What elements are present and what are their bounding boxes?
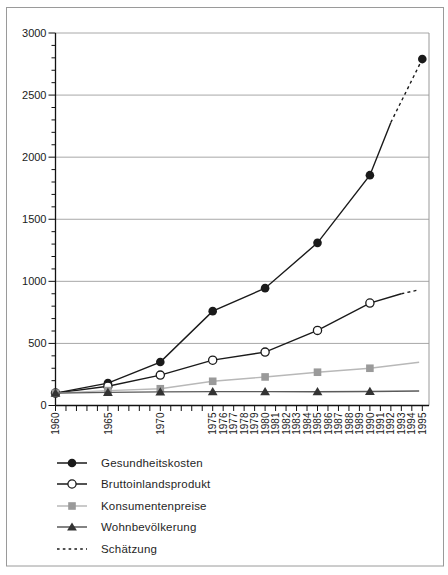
x-tick-label: 1970 bbox=[155, 412, 166, 435]
x-tick-label: 1980 bbox=[260, 412, 271, 435]
x-tick-label: 1976 bbox=[218, 412, 229, 435]
marker-open-dot bbox=[156, 371, 164, 379]
marker-dot bbox=[366, 171, 375, 180]
marker-dot bbox=[208, 307, 217, 316]
x-tick-label: 1982 bbox=[281, 412, 292, 435]
legend-symbol-gesundheitskosten bbox=[56, 456, 88, 470]
y-tick-label: 0 bbox=[40, 399, 46, 411]
series-line-gesundheitskosten bbox=[56, 122, 391, 393]
x-tick-label: 1979 bbox=[249, 412, 260, 435]
legend-symbol-konsumentenpreise bbox=[56, 499, 88, 513]
marker-dot bbox=[313, 239, 322, 248]
legend-item-konsumentenpreise: Konsumentenpreise bbox=[56, 495, 210, 517]
x-tick-label: 1988 bbox=[344, 412, 355, 435]
x-tick-label: 1977 bbox=[228, 412, 239, 435]
legend-label-konsumentenpreise: Konsumentenpreise bbox=[101, 500, 207, 512]
legend-item-bruttoinlandsprodukt: Bruttoinlandsprodukt bbox=[56, 474, 210, 496]
x-tick-label: 1994 bbox=[406, 412, 417, 435]
series-gesundheitskosten bbox=[51, 55, 426, 398]
x-tick-label: 1986 bbox=[323, 412, 334, 435]
marker-open-dot bbox=[261, 348, 269, 356]
legend-symbol-wohnbevoelkerung bbox=[56, 520, 88, 534]
x-tick-label: 1981 bbox=[270, 412, 281, 435]
marker-open-dot bbox=[68, 480, 76, 488]
x-tick-label: 1985 bbox=[312, 412, 323, 435]
legend-label-wohnbevoelkerung: Wohnbevölkerung bbox=[101, 521, 197, 533]
estimate-dashed-line-gesundheitskosten bbox=[391, 59, 422, 122]
marker-square bbox=[209, 377, 217, 385]
legend-symbol-schaetzung-dashed-line bbox=[56, 542, 88, 556]
x-tick-label: 1995 bbox=[417, 412, 428, 435]
x-tick-label: 1983 bbox=[291, 412, 302, 435]
y-tick-label: 2000 bbox=[22, 151, 46, 163]
x-tick-label: 1978 bbox=[239, 412, 250, 435]
x-tick-label: 1991 bbox=[375, 412, 386, 435]
x-tick-label: 1987 bbox=[333, 412, 344, 435]
marker-dot bbox=[418, 55, 427, 64]
y-tick-label: 500 bbox=[28, 337, 46, 349]
legend-label-schaetzung: Schätzung bbox=[101, 543, 157, 555]
y-tick-label: 2500 bbox=[22, 89, 46, 101]
x-tick-label: 1989 bbox=[354, 412, 365, 435]
marker-square bbox=[261, 373, 269, 381]
legend-item-gesundheitskosten: Gesundheitskosten bbox=[56, 452, 210, 474]
marker-dot bbox=[156, 358, 165, 367]
marker-square bbox=[366, 364, 374, 372]
x-tick-label: 1965 bbox=[103, 412, 114, 435]
marker-square bbox=[314, 368, 322, 376]
estimate-dashed-line-bruttoinlandsprodukt bbox=[401, 290, 418, 294]
marker-dot bbox=[68, 458, 77, 467]
legend-label-gesundheitskosten: Gesundheitskosten bbox=[101, 457, 203, 469]
x-tick-label: 1975 bbox=[207, 412, 218, 435]
marker-open-dot bbox=[313, 326, 321, 334]
legend-label-bruttoinlandsprodukt: Bruttoinlandsprodukt bbox=[101, 478, 210, 490]
marker-open-dot bbox=[209, 356, 217, 364]
legend-symbol-bruttoinlandsprodukt bbox=[56, 477, 88, 491]
legend-item-schaetzung: Schätzung bbox=[56, 538, 210, 560]
legend-item-wohnbevoelkerung: Wohnbevölkerung bbox=[56, 517, 210, 539]
x-tick-label: 1990 bbox=[365, 412, 376, 435]
x-tick-label: 1984 bbox=[302, 412, 313, 435]
chart-legend: Gesundheitskosten Bruttoinlandsprodukt K… bbox=[56, 452, 210, 560]
x-tick-label: 1993 bbox=[396, 412, 407, 435]
marker-square bbox=[68, 502, 76, 510]
chart-figure: 0500100015002000250030001960196519701975… bbox=[0, 0, 448, 575]
marker-open-dot bbox=[366, 299, 374, 307]
y-tick-label: 1500 bbox=[22, 213, 46, 225]
y-tick-label: 1000 bbox=[22, 275, 46, 287]
x-tick-label: 1992 bbox=[385, 412, 396, 435]
marker-dot bbox=[261, 284, 270, 293]
y-tick-label: 3000 bbox=[22, 27, 46, 39]
x-tick-label: 1960 bbox=[50, 412, 61, 435]
